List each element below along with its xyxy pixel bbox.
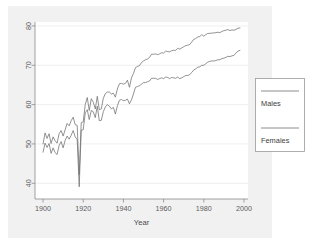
x-tick-label: 1980 (196, 204, 212, 213)
legend-label-males: Males (261, 99, 281, 108)
y-tick-label: 60 (25, 101, 34, 109)
legend-label-females: Females (261, 136, 290, 145)
y-tick-label: 80 (24, 22, 33, 30)
x-axis-ticks: 190019201940196019802000 (35, 199, 252, 213)
x-tick-label: 1960 (156, 204, 172, 213)
y-tick-label: 40 (25, 179, 34, 187)
x-tick-label: 1940 (115, 204, 131, 213)
y-tick-label: 50 (25, 140, 34, 148)
x-tick-label: 2000 (236, 204, 252, 213)
y-tick-label: 70 (25, 61, 34, 69)
y-axis-ticks: 4050607080 (24, 22, 35, 187)
plot-panel (35, 22, 248, 199)
x-axis-title: Year (134, 218, 150, 227)
life-expectancy-line-chart: 4050607080 190019201940196019802000 Year… (0, 0, 315, 249)
legend: Males Females (256, 79, 305, 152)
chart-screenshot: 4050607080 190019201940196019802000 Year… (0, 0, 315, 249)
x-tick-label: 1920 (75, 204, 91, 213)
x-tick-label: 1900 (35, 204, 51, 213)
